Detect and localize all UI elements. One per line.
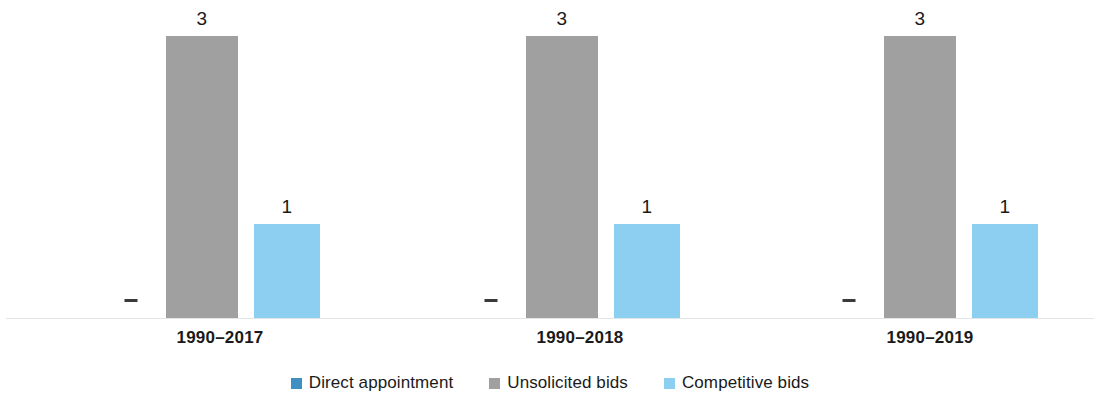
bar-value-label: 3 [915,8,926,30]
bar-slot-direct-appointment [838,0,860,318]
bar-slot-unsolicited-bids: 3 [884,0,956,318]
zero-value-dash [843,299,856,302]
bar-group: 31 [420,0,740,320]
plot-area: 313131 [0,0,1100,320]
legend-swatch-icon [664,378,675,389]
legend-item-competitive-bids[interactable]: Competitive bids [664,373,809,393]
bar-group-bars: 31 [420,0,740,318]
bar-slot-competitive-bids: 1 [614,0,680,318]
bar-slot-competitive-bids: 1 [254,0,320,318]
bar-group: 31 [778,0,1098,320]
category-label-1: 1990–2017 [60,328,380,348]
bar-slot-direct-appointment [120,0,142,318]
legend-item-unsolicited-bids[interactable]: Unsolicited bids [489,373,628,393]
bar-unsolicited-bids[interactable]: 3 [166,36,238,318]
bar-value-label: 1 [282,196,293,218]
zero-value-dash [125,299,138,302]
bar-value-label: 3 [197,8,208,30]
category-label-2: 1990–2018 [420,328,740,348]
bar-group: 31 [60,0,380,320]
bar-slot-unsolicited-bids: 3 [166,0,238,318]
legend-label: Unsolicited bids [507,373,628,393]
legend-label: Direct appointment [309,373,453,393]
bar-unsolicited-bids[interactable]: 3 [526,36,598,318]
bar-group-bars: 31 [60,0,380,318]
bar-competitive-bids[interactable]: 1 [614,224,680,318]
legend-swatch-icon [489,378,500,389]
zero-value-dash [485,299,498,302]
bar-group-bars: 31 [778,0,1098,318]
bar-chart: 313131 1990–20171990–20181990–2019 Direc… [0,0,1100,398]
bar-unsolicited-bids[interactable]: 3 [884,36,956,318]
category-label-3: 1990–2019 [770,328,1090,348]
bar-competitive-bids[interactable]: 1 [972,224,1038,318]
bar-value-label: 3 [557,8,568,30]
category-axis-labels: 1990–20171990–20181990–2019 [0,328,1100,358]
bar-value-label: 1 [1000,196,1011,218]
chart-legend: Direct appointmentUnsolicited bidsCompet… [0,368,1100,398]
bar-competitive-bids[interactable]: 1 [254,224,320,318]
legend-item-direct-appointment[interactable]: Direct appointment [291,373,453,393]
bar-slot-direct-appointment [480,0,502,318]
legend-label: Competitive bids [682,373,809,393]
legend-swatch-icon [291,378,302,389]
bar-value-label: 1 [642,196,653,218]
bar-slot-unsolicited-bids: 3 [526,0,598,318]
bar-slot-competitive-bids: 1 [972,0,1038,318]
